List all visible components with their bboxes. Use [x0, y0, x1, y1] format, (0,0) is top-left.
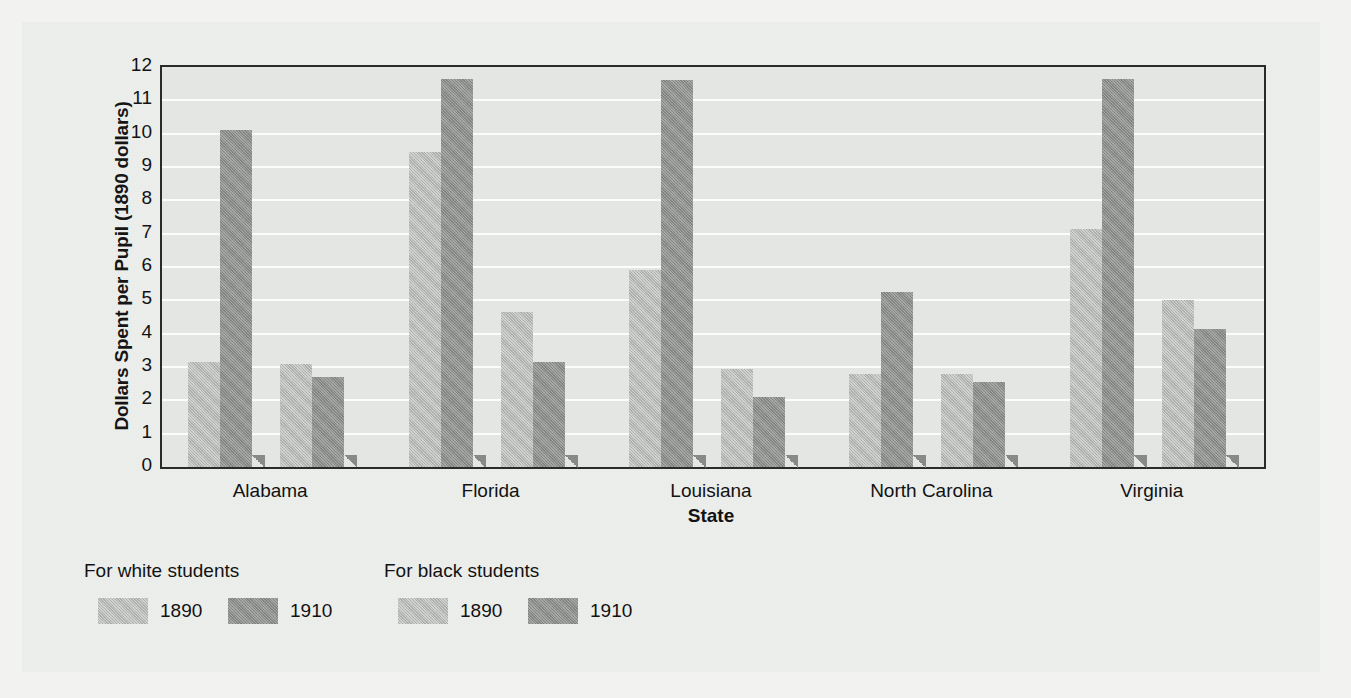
plot-area — [160, 65, 1266, 469]
bar-florida-black-1890 — [501, 312, 533, 467]
bar-louisiana-black-1910 — [753, 397, 785, 467]
bar-fill — [312, 377, 344, 467]
bar-drop-shadow — [252, 455, 265, 468]
bar-fill — [1162, 300, 1194, 467]
gridline — [162, 166, 1264, 168]
bar-north-carolina-white-1910 — [881, 292, 913, 467]
bar-drop-shadow — [1005, 455, 1018, 468]
x-axis-title: State — [160, 505, 1262, 527]
bar-fill — [849, 374, 881, 467]
bar-fill — [973, 382, 1005, 467]
y-axis-tick-label: 2 — [112, 388, 152, 407]
bar-fill — [941, 374, 973, 467]
gridline — [162, 133, 1264, 135]
x-axis-tick-label-north-carolina: North Carolina — [811, 480, 1051, 502]
bar-louisiana-white-1890 — [629, 270, 661, 467]
x-axis-tick-label-louisiana: Louisiana — [591, 480, 831, 502]
bar-drop-shadow — [693, 455, 706, 468]
bar-chart-figure: Dollars Spent per Pupil (1890 dollars) 0… — [0, 0, 1351, 698]
bar-fill — [661, 80, 693, 467]
legend-group-title: For black students — [384, 560, 539, 582]
legend-label: 1910 — [590, 600, 632, 622]
y-axis-tick-label: 11 — [112, 88, 152, 107]
bar-drop-shadow — [913, 455, 926, 468]
bar-north-carolina-black-1890 — [941, 374, 973, 467]
dark-gray-swatch — [528, 598, 578, 624]
legend-group-title: For white students — [84, 560, 239, 582]
y-axis-tick-label: 5 — [112, 288, 152, 307]
bar-fill — [1194, 329, 1226, 467]
y-axis-tick-label: 6 — [112, 255, 152, 274]
bar-alabama-black-1890 — [280, 364, 312, 467]
y-axis-tick-label: 4 — [112, 322, 152, 341]
y-axis-tick-label: 9 — [112, 155, 152, 174]
bar-virginia-black-1890 — [1162, 300, 1194, 467]
bar-fill — [881, 292, 913, 467]
bar-virginia-white-1890 — [1070, 229, 1102, 467]
y-axis-tick-label: 3 — [112, 355, 152, 374]
y-axis-tick-label: 0 — [112, 455, 152, 474]
bar-drop-shadow — [565, 455, 578, 468]
x-axis-tick-label-alabama: Alabama — [150, 480, 390, 502]
chart-legend: For white students18901910For black stud… — [84, 560, 784, 650]
scanned-page-background: Dollars Spent per Pupil (1890 dollars) 0… — [0, 0, 1351, 698]
bar-alabama-white-1910 — [220, 130, 252, 467]
bar-fill — [441, 79, 473, 467]
bar-fill — [533, 362, 565, 467]
bar-fill — [220, 130, 252, 467]
bar-florida-white-1890 — [409, 152, 441, 467]
bar-fill — [629, 270, 661, 467]
bar-drop-shadow — [473, 455, 486, 468]
bar-fill — [1102, 79, 1134, 467]
legend-label: 1910 — [290, 600, 332, 622]
y-axis-tick-label: 8 — [112, 188, 152, 207]
bar-drop-shadow — [785, 455, 798, 468]
gridline — [162, 199, 1264, 201]
bar-fill — [721, 369, 753, 467]
bar-alabama-white-1890 — [188, 362, 220, 467]
bar-fill — [280, 364, 312, 467]
bar-drop-shadow — [1226, 455, 1239, 468]
bar-fill — [409, 152, 441, 467]
y-axis-tick-label: 1 — [112, 422, 152, 441]
x-axis-tick-label-florida: Florida — [371, 480, 611, 502]
bar-drop-shadow — [1134, 455, 1147, 468]
bar-north-carolina-black-1910 — [973, 382, 1005, 467]
bar-fill — [1070, 229, 1102, 467]
bar-louisiana-black-1890 — [721, 369, 753, 467]
bar-fill — [188, 362, 220, 467]
bar-north-carolina-white-1890 — [849, 374, 881, 467]
light-gray-swatch — [98, 598, 148, 624]
bar-florida-white-1910 — [441, 79, 473, 467]
bar-virginia-white-1910 — [1102, 79, 1134, 467]
bar-louisiana-white-1910 — [661, 80, 693, 467]
dark-gray-swatch — [228, 598, 278, 624]
legend-label: 1890 — [160, 600, 202, 622]
bar-fill — [753, 397, 785, 467]
y-axis-tick-label: 12 — [112, 55, 152, 74]
bar-drop-shadow — [344, 455, 357, 468]
light-gray-swatch — [398, 598, 448, 624]
x-axis-tick-label-virginia: Virginia — [1032, 480, 1272, 502]
legend-label: 1890 — [460, 600, 502, 622]
bar-alabama-black-1910 — [312, 377, 344, 467]
gridline — [162, 99, 1264, 101]
bar-virginia-black-1910 — [1194, 329, 1226, 467]
bar-fill — [501, 312, 533, 467]
y-axis-tick-label: 10 — [112, 122, 152, 141]
y-axis-tick-label: 7 — [112, 222, 152, 241]
bar-florida-black-1910 — [533, 362, 565, 467]
